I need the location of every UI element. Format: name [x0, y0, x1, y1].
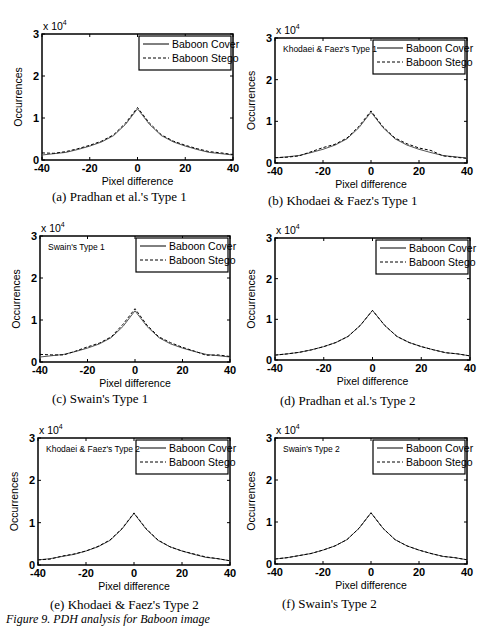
svg-text:Occurrences: Occurrences [245, 71, 257, 131]
svg-text:0: 0 [266, 157, 272, 169]
svg-text:20: 20 [176, 567, 188, 579]
svg-text:2: 2 [29, 474, 35, 486]
svg-text:Baboon Stego: Baboon Stego [409, 256, 476, 268]
svg-text:-20: -20 [315, 566, 331, 578]
svg-text:2: 2 [266, 74, 272, 86]
svg-text:20: 20 [176, 364, 188, 376]
svg-text:-20: -20 [78, 567, 94, 579]
svg-text:0: 0 [134, 162, 140, 174]
svg-text:0: 0 [369, 362, 375, 374]
svg-text:0: 0 [132, 364, 138, 376]
svg-text:Occurrences: Occurrences [245, 269, 257, 329]
svg-text:0: 0 [368, 165, 374, 177]
svg-text:20: 20 [413, 165, 425, 177]
svg-text:2: 2 [266, 474, 272, 486]
svg-text:0: 0 [266, 558, 272, 570]
svg-text:2: 2 [33, 70, 39, 82]
svg-text:Khodaei & Faez's Type 1: Khodaei & Faez's Type 1 [283, 44, 377, 54]
svg-text:40: 40 [227, 162, 239, 174]
chart-panel-e: -40-20020400123x 104Pixel differenceOccu… [0, 420, 245, 625]
subfigure-caption-d: (d) Pradhan et al.'s Type 2 [280, 393, 416, 409]
svg-text:0: 0 [33, 154, 39, 166]
svg-text:1: 1 [33, 112, 39, 124]
svg-text:Swain's Type 1: Swain's Type 1 [48, 242, 105, 252]
chart-panel-a: -40-20020400123x 104Pixel differenceOccu… [0, 0, 245, 205]
svg-text:Pixel difference: Pixel difference [99, 377, 171, 389]
svg-text:20: 20 [413, 566, 425, 578]
svg-text:3: 3 [33, 28, 39, 40]
svg-text:-20: -20 [315, 165, 331, 177]
svg-text:0: 0 [131, 567, 137, 579]
svg-text:1: 1 [266, 115, 272, 127]
svg-text:-20: -20 [80, 364, 96, 376]
subfigure-caption-f: (f) Swain's Type 2 [282, 596, 377, 612]
svg-text:x 104: x 104 [43, 19, 67, 32]
svg-text:20: 20 [415, 362, 427, 374]
svg-text:20: 20 [179, 162, 191, 174]
chart-panel-b: -40-20020400123x 104Pixel differenceOccu… [245, 0, 490, 205]
chart-panel-f: -40-20020400123x 104Pixel differenceOccu… [245, 420, 490, 625]
svg-text:0: 0 [31, 356, 37, 368]
svg-text:1: 1 [266, 313, 272, 325]
svg-text:2: 2 [31, 272, 37, 284]
svg-text:-20: -20 [82, 162, 98, 174]
chart-panel-c: -40-20020400123x 104Pixel differenceOccu… [0, 210, 245, 415]
svg-text:Baboon Stego: Baboon Stego [406, 56, 473, 68]
svg-text:3: 3 [266, 432, 272, 444]
svg-text:-20: -20 [316, 362, 332, 374]
svg-text:0: 0 [29, 559, 35, 571]
svg-text:40: 40 [461, 165, 473, 177]
svg-text:x 104: x 104 [276, 423, 300, 436]
svg-text:1: 1 [266, 516, 272, 528]
svg-text:2: 2 [266, 273, 272, 285]
svg-text:40: 40 [224, 364, 236, 376]
subfigure-caption-a: (a) Pradhan et al.'s Type 1 [52, 189, 187, 205]
svg-text:0: 0 [266, 354, 272, 366]
svg-text:3: 3 [29, 432, 35, 444]
svg-text:Occurrences: Occurrences [245, 471, 257, 531]
svg-text:Baboon Stego: Baboon Stego [169, 456, 236, 468]
svg-text:x 104: x 104 [276, 23, 300, 36]
svg-text:Occurrences: Occurrences [8, 472, 20, 532]
svg-text:3: 3 [31, 230, 37, 242]
subfigure-caption-c: (c) Swain's Type 1 [52, 391, 148, 407]
svg-text:Pixel difference: Pixel difference [335, 579, 407, 591]
svg-text:0: 0 [368, 566, 374, 578]
chart-panel-d: -40-20020400123x 104Pixel differenceOccu… [245, 210, 490, 415]
subfigure-caption-b: (b) Khodaei & Faez's Type 1 [268, 193, 418, 209]
svg-text:Baboon Cover: Baboon Cover [406, 442, 474, 454]
svg-text:Pixel difference: Pixel difference [98, 580, 170, 592]
svg-text:Baboon Stego: Baboon Stego [172, 52, 239, 64]
svg-text:Baboon Stego: Baboon Stego [169, 254, 236, 266]
svg-text:x 104: x 104 [41, 221, 65, 234]
svg-text:Baboon Cover: Baboon Cover [409, 242, 477, 254]
svg-text:1: 1 [31, 314, 37, 326]
svg-text:Pixel difference: Pixel difference [337, 375, 409, 387]
svg-text:x 104: x 104 [276, 223, 300, 236]
svg-text:Occurrences: Occurrences [10, 269, 22, 329]
svg-text:Baboon Cover: Baboon Cover [169, 240, 237, 252]
svg-text:Occurrences: Occurrences [12, 67, 24, 127]
svg-text:Khodaei & Faez's Type 2: Khodaei & Faez's Type 2 [46, 444, 140, 454]
svg-text:3: 3 [266, 232, 272, 244]
svg-text:Baboon Cover: Baboon Cover [406, 42, 474, 54]
svg-text:1: 1 [29, 517, 35, 529]
svg-text:x 104: x 104 [39, 423, 63, 436]
svg-text:Pixel difference: Pixel difference [335, 178, 407, 190]
figure-caption: Figure 9. PDH analysis for Baboon image [6, 612, 210, 627]
svg-text:40: 40 [461, 566, 473, 578]
svg-text:Baboon Stego: Baboon Stego [406, 456, 473, 468]
svg-text:3: 3 [266, 32, 272, 44]
svg-text:40: 40 [224, 567, 236, 579]
subfigure-caption-e: (e) Khodaei & Faez's Type 2 [50, 597, 199, 613]
svg-text:Pixel difference: Pixel difference [102, 175, 174, 187]
svg-text:Baboon Cover: Baboon Cover [169, 442, 237, 454]
svg-text:Swain's Type 2: Swain's Type 2 [283, 444, 340, 454]
svg-text:Baboon Cover: Baboon Cover [172, 38, 240, 50]
svg-text:40: 40 [464, 362, 476, 374]
